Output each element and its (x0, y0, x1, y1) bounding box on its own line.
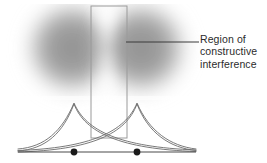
diagram-canvas (0, 0, 267, 163)
annotation-line-2: constructive (200, 45, 267, 57)
annotation-line-1: Region of (200, 33, 267, 45)
region-annotation-label: Region of constructive interference (200, 33, 267, 70)
wave-source-right (134, 149, 141, 156)
wave-source-left (71, 149, 78, 156)
wave-interference-figure: Region of constructive interference (0, 0, 267, 163)
amplitude-profile-curves (18, 103, 196, 152)
annotation-line-3: interference (200, 58, 267, 70)
